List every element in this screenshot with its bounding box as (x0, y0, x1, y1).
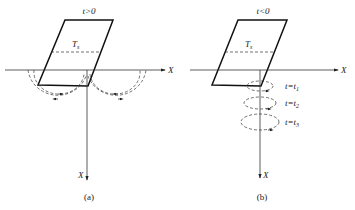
region-label-b: Ts (245, 39, 253, 50)
flow-loop-left-outer (28, 70, 86, 95)
caption-a: (a) (84, 192, 94, 202)
condition-label-a: t>0 (82, 6, 96, 16)
condition-label-b: t<0 (256, 6, 270, 16)
caption-b: (b) (257, 192, 268, 202)
x-axis-label-b: X (340, 65, 347, 75)
flow-loop-right-inner (90, 70, 140, 94)
inclined-slab-a (38, 20, 113, 86)
region-label-a: Ts (72, 39, 80, 50)
diagram: t>0 Ts X X (a) t<0 Ts X X (0, 0, 355, 210)
panel-b: t<0 Ts X X t=t1 t=t2 t=t3 (b) (190, 6, 347, 202)
inclined-slab-b (212, 20, 287, 86)
time-label-t1: t=t1 (285, 81, 299, 92)
y-axis-label-a: X (77, 170, 84, 180)
y-axis-label-b: X (262, 170, 269, 180)
time-label-t3: t=t3 (285, 117, 299, 128)
panel-a: t>0 Ts X X (a) (5, 6, 174, 202)
x-axis-label-a: X (167, 65, 174, 75)
time-label-t2: t=t2 (285, 98, 299, 109)
